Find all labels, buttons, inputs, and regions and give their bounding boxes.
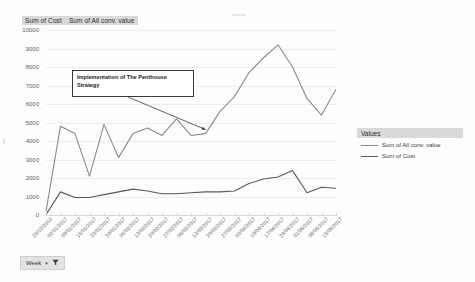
x-axis-tick (75, 213, 76, 216)
x-axis-tick (133, 213, 134, 216)
annotation-text: Implementation of The Penthouse Strategy (77, 74, 167, 88)
y-axis-tick-label: 5000 (26, 120, 39, 126)
legend-label: Sum of All conv. value (382, 142, 441, 148)
x-axis-tick (148, 213, 149, 216)
legend-item[interactable]: Sum of Cost (361, 153, 459, 159)
annotation-arrow (46, 30, 336, 215)
legend: Values Sum of All conv. valueSum of Cost (357, 128, 463, 164)
chart-field-buttons: Sum of Cost Sum of All conv. value (22, 16, 138, 25)
x-axis-tick (206, 213, 207, 216)
week-filter-label: Week (26, 260, 41, 266)
x-axis: 26/12/201602/01/201709/01/201716/01/2017… (46, 216, 336, 258)
x-axis-tick (336, 213, 337, 216)
x-axis-tick (235, 213, 236, 216)
x-axis-tick (191, 213, 192, 216)
y-axis-tick-label: 4000 (26, 138, 39, 144)
y-axis-tick-label: 10000 (22, 27, 39, 33)
y-axis-tick-label: 3000 (26, 157, 39, 163)
x-axis-tick (220, 213, 221, 216)
stray-mark: ) (3, 138, 5, 144)
y-axis-tick-label: 2000 (26, 175, 39, 181)
x-axis-tick (249, 213, 250, 216)
legend-swatch (361, 156, 378, 157)
x-axis-tick (278, 213, 279, 216)
x-axis-tick (293, 213, 294, 216)
plot-area (46, 30, 336, 215)
x-axis-tick (162, 213, 163, 216)
x-axis-tick (104, 213, 105, 216)
chevron-down-icon[interactable]: ▼ (44, 261, 48, 266)
funnel-filter-icon[interactable] (52, 259, 59, 267)
x-axis-tick (307, 213, 308, 216)
x-axis-tick (264, 213, 265, 216)
field-button-cost[interactable]: Sum of Cost (25, 17, 62, 24)
x-axis-tick (177, 213, 178, 216)
x-axis-tick (46, 213, 47, 216)
annotation-callout: Implementation of The Penthouse Strategy (72, 70, 194, 97)
y-axis: 1000090008000700060005000400030002000100… (0, 30, 44, 215)
x-axis-tick (61, 213, 62, 216)
x-axis-tick (119, 213, 120, 216)
page-artifact (232, 14, 246, 16)
x-axis-tick (322, 213, 323, 216)
field-button-conv-value[interactable]: Sum of All conv. value (69, 17, 135, 24)
y-axis-tick-label: 1000 (26, 194, 39, 200)
legend-items: Sum of All conv. valueSum of Cost (357, 138, 463, 159)
y-axis-tick-label: 7000 (26, 83, 39, 89)
y-axis-tick-label: 6000 (26, 101, 39, 107)
y-axis-tick-label: 8000 (26, 64, 39, 70)
y-axis-tick-label: 0 (36, 212, 39, 218)
legend-label: Sum of Cost (382, 153, 415, 159)
week-filter-button[interactable]: Week ▼ (20, 256, 65, 270)
legend-header: Values (357, 128, 463, 138)
legend-item[interactable]: Sum of All conv. value (361, 142, 459, 148)
x-axis-tick (90, 213, 91, 216)
y-axis-tick-label: 9000 (26, 46, 39, 52)
legend-swatch (361, 145, 378, 146)
pivot-chart-screenshot: Sum of Cost Sum of All conv. value 10000… (0, 0, 475, 282)
